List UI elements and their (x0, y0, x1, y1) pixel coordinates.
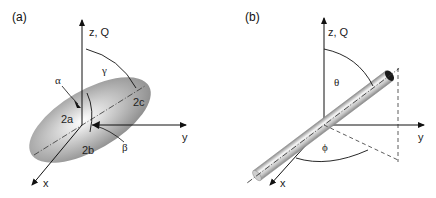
axis-2c-label: 2c (133, 96, 145, 108)
y-axis-label: y (182, 131, 188, 143)
beta-label: β (122, 141, 128, 153)
axis-2b-label: 2b (82, 144, 94, 156)
gamma-label: γ (101, 64, 107, 76)
cylinder-shape (244, 64, 403, 188)
projection-line (324, 125, 398, 160)
cylinder-diagram: (b) z, Q y x θ ϕ (218, 0, 436, 198)
x-axis-label: x (280, 177, 286, 189)
y-axis-label: y (418, 131, 424, 143)
panel-a-ellipsoid: (a) z, Q y x γ α β 2a 2b 2c (0, 0, 218, 198)
alpha-label: α (55, 74, 61, 86)
panel-label: (a) (12, 10, 27, 24)
panel-b-cylinder: (b) z, Q y x θ ϕ (218, 0, 436, 198)
ellipsoid-diagram: (a) z, Q y x γ α β 2a 2b 2c (0, 0, 218, 198)
theta-arc (324, 49, 373, 86)
phi-arc (296, 150, 368, 162)
panel-label: (b) (245, 10, 260, 24)
z-axis-label: z, Q (328, 26, 349, 38)
x-axis-label: x (43, 177, 49, 189)
axis-2a-label: 2a (61, 113, 74, 125)
theta-label: θ (334, 76, 339, 88)
phi-label: ϕ (322, 141, 328, 153)
z-axis-label: z, Q (89, 26, 110, 38)
